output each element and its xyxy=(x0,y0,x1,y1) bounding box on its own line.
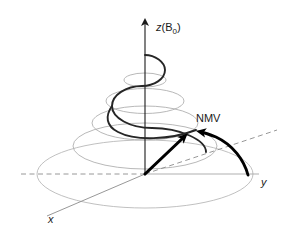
nmv-label: NMV xyxy=(196,112,221,124)
z-axis-label-paren-open: (B xyxy=(162,21,173,33)
y-axis-label: y xyxy=(260,176,268,188)
z-axis-label: z(B0) xyxy=(155,21,181,36)
x-axis-label: x xyxy=(47,213,54,225)
precession-path-arrow xyxy=(201,132,248,175)
nmv-precession-diagram: z(B0) y x NMV xyxy=(0,0,289,238)
figure-container: z(B0) y x NMV xyxy=(0,0,289,238)
z-axis-label-paren-close: ) xyxy=(177,21,181,33)
x-axis-positive xyxy=(47,174,145,216)
